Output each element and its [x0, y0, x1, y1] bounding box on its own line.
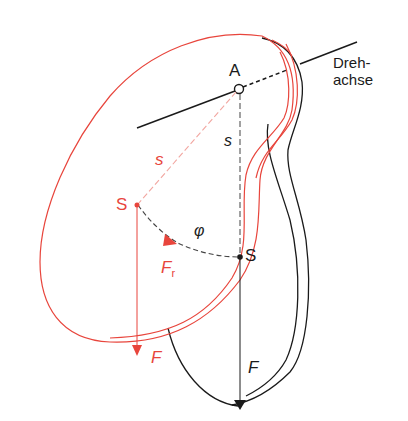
- center-of-mass-displaced: [135, 203, 140, 208]
- pivot-label: A: [229, 61, 240, 81]
- distance-label-rest: s: [224, 132, 232, 150]
- weight-label-displaced: F: [151, 348, 161, 368]
- weight-label-rest: F: [248, 358, 258, 378]
- restoring-force-label: Fr: [161, 258, 175, 279]
- axis-label-line1: Dreh-: [333, 54, 373, 71]
- angle-label: φ: [194, 222, 204, 240]
- center-label-displaced: S: [116, 195, 127, 215]
- restoring-force-arrow: [163, 234, 177, 246]
- restoring-force-symbol: F: [161, 258, 171, 277]
- center-label-rest: S: [245, 246, 256, 266]
- rotation-axis: [137, 42, 357, 128]
- pendulum-diagram: A Dreh- achse s s S S φ Fr F F: [0, 0, 408, 421]
- distance-label-displaced: s: [155, 150, 164, 170]
- restoring-force-subscript: r: [171, 267, 175, 279]
- angle-arc: [138, 205, 240, 257]
- weight-arrowhead-displaced: [132, 345, 142, 356]
- axis-label-line2: achse: [333, 71, 373, 88]
- weight-arrowhead-rest: [234, 400, 246, 410]
- axis-label: Dreh- achse: [333, 54, 373, 88]
- center-of-mass-rest: [237, 254, 243, 260]
